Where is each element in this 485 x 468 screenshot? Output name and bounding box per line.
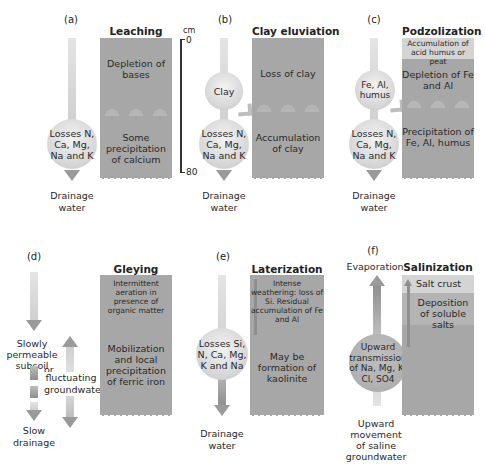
ball-label: Fe, Al, humus — [355, 80, 395, 100]
soil-column: Intermittent aeration in presence of org… — [100, 275, 172, 415]
panel-title: Leaching — [100, 25, 172, 37]
panel-letter: (b) — [210, 14, 240, 25]
zone-lower: Precipitation of Fe, Al, humus — [402, 126, 474, 148]
panel-title: Gleying — [100, 263, 172, 275]
scale-tick-top — [180, 39, 185, 40]
soil-column: Intense weathering: loss of Si. Residual… — [250, 275, 324, 415]
bottom-label: Drainage water — [192, 428, 252, 452]
arrow-down-icon — [26, 320, 42, 331]
panel-title: Clay eluviation — [252, 25, 324, 37]
arrow-down-icon — [26, 410, 42, 421]
jagged-edge — [402, 414, 474, 420]
upward-marker — [407, 285, 410, 347]
bottom-label: Slow drainage — [6, 425, 62, 449]
ball-label: Losses Si, N, Ca, Mg, K and Na — [196, 338, 248, 371]
panel-letter: (d) — [19, 251, 49, 262]
jagged-edge — [402, 177, 474, 183]
dash-segment — [30, 386, 38, 398]
soil-column: Depletion of bases Some precipitation of… — [100, 38, 172, 178]
panel-title: Podzolization — [402, 25, 474, 37]
scale-tick-bottom — [180, 172, 185, 173]
losses-ball: Losses N, Ca, Mg, Na and K — [47, 119, 97, 169]
horizon-boundary — [100, 104, 172, 116]
losses-ball: Losses Si, N, Ca, Mg, K and Na — [196, 328, 248, 380]
ball-label: Upward transmission of Na, Mg, K, Cl, SO… — [349, 342, 407, 384]
panel-letter: (e) — [208, 251, 238, 262]
ball-label: Losses N, Ca, Mg, Na and K — [349, 128, 399, 161]
zone-lower: Some precipitation of calcium — [100, 132, 172, 165]
zone-lower: Mobilization and local precipitation of … — [100, 343, 172, 387]
panel-title: Laterization — [250, 263, 324, 275]
bottom-label: Upward movement of saline groundwater — [345, 418, 407, 462]
horizon-boundary — [252, 100, 324, 112]
soil-column: Salt crust Deposition of soluble salts — [402, 275, 474, 415]
bottom-label: Drainage water — [344, 190, 404, 214]
panel-letter: (f) — [358, 245, 388, 256]
arrow-up-icon — [369, 275, 385, 286]
arrow-up-icon — [62, 336, 78, 347]
zone-upper: Depletion of Fe and Al — [402, 69, 474, 91]
scale-bar — [180, 39, 182, 173]
depth-unit: cm — [183, 26, 195, 35]
arrow-shaft — [68, 38, 76, 122]
arrow-down-icon — [216, 170, 232, 181]
arrow-up-icon — [404, 279, 412, 286]
bottom-label: Drainage water — [194, 190, 254, 214]
evaporation-label: Evaporation — [345, 261, 405, 273]
zone-upper: Deposition of soluble salts — [412, 297, 474, 330]
arrow-down-icon — [62, 417, 78, 428]
groundwater-label: fluctuating groundwater — [44, 372, 98, 396]
jagged-edge — [100, 414, 172, 420]
zone-upper: Intermittent aeration in presence of org… — [100, 279, 172, 315]
soil-column: Loss of clay Accumulation of clay — [252, 38, 324, 178]
dash-segment — [30, 366, 38, 380]
zone-upper: Intense weathering: loss of Si. Residual… — [250, 279, 324, 324]
dash-segment — [30, 402, 38, 410]
jagged-edge — [100, 177, 172, 183]
zone-upper: Depletion of bases — [100, 58, 172, 80]
arrow-down-icon — [64, 170, 80, 181]
arrow-down-icon — [366, 170, 382, 181]
zone-lower: Accumulation of clay — [252, 132, 324, 154]
horizon-boundary — [402, 96, 474, 108]
ball-label: Losses N, Ca, Mg, Na and K — [47, 128, 97, 161]
transmission-ball: Upward transmission of Na, Mg, K, Cl, SO… — [349, 334, 407, 392]
ball-label: Clay — [214, 86, 235, 97]
panel-letter: (a) — [56, 14, 86, 25]
panel-title: Salinization — [402, 261, 474, 273]
losses-ball: Losses N, Ca, Mg, Na and K — [199, 119, 249, 169]
panel-letter: (c) — [359, 14, 389, 25]
top-band-label: Salt crust — [416, 278, 474, 289]
zone-lower: May be formation of kaolinite — [250, 351, 324, 384]
losses-ball: Losses N, Ca, Mg, Na and K — [349, 119, 399, 169]
arrow-right-icon — [238, 103, 253, 116]
zone-upper: Loss of clay — [252, 68, 324, 79]
top-band: Accumulation of acid humus or peat — [402, 38, 474, 59]
depth-top: 0 — [186, 35, 192, 45]
arrow-shaft — [30, 272, 38, 322]
arrow-down-icon — [214, 405, 230, 416]
jagged-edge — [252, 177, 324, 183]
ball-label: Losses N, Ca, Mg, Na and K — [199, 128, 249, 161]
soil-column: Accumulation of acid humus or peat Deple… — [402, 38, 474, 178]
depth-bottom: 80 — [186, 167, 197, 177]
jagged-edge — [250, 414, 324, 420]
bottom-label: Drainage water — [42, 190, 102, 214]
